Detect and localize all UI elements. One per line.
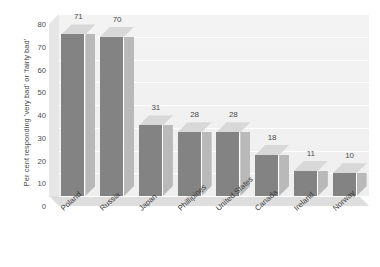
bar-value-label-poland: 71 [74,12,83,21]
bar-series: 7170312828181110 [49,14,369,206]
bar-value-label-phillipines: 28 [190,110,199,119]
bar-value-label-japan: 31 [151,103,160,112]
y-axis-tick-70: 70 [38,42,46,51]
y-axis-tick-20: 20 [38,156,46,165]
bar-chart: Per cent responding 'very bad' or 'fairl… [0,0,380,267]
y-axis-tick-0: 0 [42,202,46,211]
bar-side-face [85,34,95,196]
bar-value-label-united-states: 28 [229,110,238,119]
bar-top-face [178,122,212,132]
bar-top-face [139,115,173,125]
bar-value-label-norway: 10 [345,151,354,160]
y-axis-tick-80: 80 [38,20,46,29]
bar-top-face [294,161,328,171]
bar-value-label-russia: 70 [113,15,122,24]
bar-side-face [163,125,173,196]
y-axis-tick-30: 30 [38,133,46,142]
bar-side-face [357,173,367,196]
bar-side-face [318,171,328,196]
bar-top-face [216,122,250,132]
bar-value-label-ireland: 11 [307,149,315,158]
bar-japan [139,125,163,196]
bar-top-face [333,163,367,173]
bar-side-face [124,37,134,196]
bar-front-face [139,125,163,196]
bar-top-face [255,145,289,155]
bar-side-face [279,155,289,196]
bar-poland [61,34,85,196]
y-axis-tick-labels: 01020304050607080 [22,0,46,267]
y-axis-tick-60: 60 [38,65,46,74]
x-axis-category-labels: PolandRussiaJapanPhillipinesUnited State… [49,206,379,267]
bar-front-face [100,37,124,196]
bar-front-face [61,34,85,196]
bar-top-face [61,24,95,34]
y-axis-tick-10: 10 [38,179,46,188]
y-axis-tick-50: 50 [38,88,46,97]
bar-russia [100,37,124,196]
bar-top-face [100,27,134,37]
plot-area: 7170312828181110 [49,14,369,206]
bar-value-label-canada: 18 [268,133,277,142]
y-axis-tick-40: 40 [38,111,46,120]
